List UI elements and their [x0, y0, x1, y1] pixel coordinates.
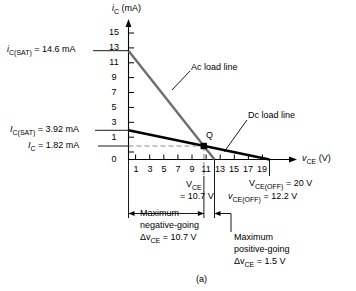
figure-caption: (a) — [196, 274, 207, 284]
ic-sat-dc-label: IC(SAT) = 3.92 mA — [10, 124, 79, 136]
max-positive-line1: Maximum — [234, 232, 273, 242]
bracket-max-positive — [215, 211, 232, 232]
ic-sat-ac-label: iC(SAT) = 14.6 mA — [7, 44, 76, 56]
max-negative-delta: ΔvCE = 10.7 V — [140, 232, 197, 244]
vce-off-dc-label: VCE(OFF) = 20 V — [249, 178, 312, 190]
load-line-figure: iC (mA) vCE (V) 15 13 11 9 7 5 3 1 0 1 3… — [0, 0, 356, 291]
y-tick-label-0: 0 — [106, 155, 122, 164]
y-axis-arrow — [126, 19, 132, 27]
y-tick-label-5: 5 — [106, 103, 122, 112]
y-tick-label-9: 9 — [106, 73, 122, 82]
x-tick-label-19: 19 — [254, 165, 270, 174]
max-negative-line2: negative-going — [140, 220, 199, 230]
max-positive-line2: positive-going — [234, 244, 290, 254]
ic-q-label: IC = 1.82 mA — [28, 140, 79, 152]
leader-dc-load-line — [224, 120, 247, 152]
y-tick-label-1: 1 — [106, 133, 122, 142]
vce-q-label: VCE — [186, 179, 202, 191]
dc-load-line-label: Dc load line — [248, 110, 295, 120]
max-negative-line1: Maximum — [140, 208, 179, 218]
ac-load-line-label: Ac load line — [191, 62, 238, 72]
max-positive-delta: ΔvCE = 1.5 V — [234, 256, 286, 268]
leader-ac-load-line — [172, 71, 190, 90]
y-axis-label: iC (mA) — [112, 3, 141, 15]
q-point-label: Q — [206, 130, 213, 140]
y-tick-label-7: 7 — [106, 88, 122, 97]
x-axis-label: vCE (V) — [302, 153, 331, 165]
y-tick-label-11: 11 — [106, 58, 122, 67]
y-tick-label-3: 3 — [106, 118, 122, 127]
y-tick-label-15: 15 — [106, 28, 122, 37]
q-point-marker — [201, 143, 207, 149]
x-axis-arrow — [289, 157, 297, 163]
vce-q-value: = 10.7 V — [180, 191, 214, 201]
vce-off-ac-label: vCE(OFF) = 12.2 V — [228, 191, 297, 203]
y-tick-label-13: 13 — [106, 43, 122, 52]
